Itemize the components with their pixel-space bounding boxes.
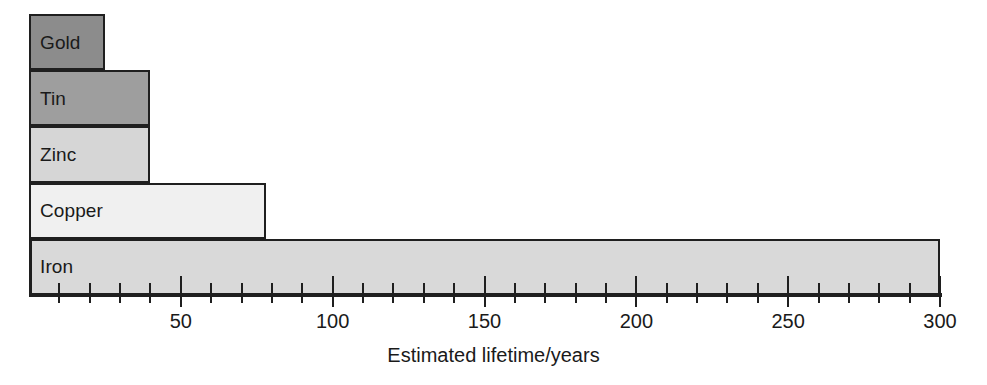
x-tick-below xyxy=(939,297,941,307)
x-tick-below xyxy=(757,297,759,303)
x-tick-below xyxy=(878,297,880,303)
x-tick-minor xyxy=(362,283,364,294)
bar-zinc: Zinc xyxy=(29,126,150,182)
x-tick-label: 300 xyxy=(923,311,956,331)
horizontal-bar-chart: GoldTinZincCopperIron 50100150200250300 … xyxy=(0,0,987,385)
x-tick-below xyxy=(666,297,668,303)
axis-left-cap xyxy=(29,237,32,295)
x-tick-below xyxy=(514,297,516,303)
x-tick-major xyxy=(484,276,486,294)
bar-label: Zinc xyxy=(31,145,76,164)
x-tick-minor xyxy=(575,283,577,294)
x-tick-label: 100 xyxy=(316,311,349,331)
x-tick-minor xyxy=(544,283,546,294)
x-tick-below xyxy=(210,297,212,303)
x-tick-minor xyxy=(271,283,273,294)
x-tick-minor xyxy=(818,283,820,294)
x-tick-below xyxy=(180,297,182,307)
x-tick-below xyxy=(848,297,850,303)
plot-area: GoldTinZincCopperIron xyxy=(29,14,940,295)
x-tick-below xyxy=(332,297,334,307)
bar-row: Zinc xyxy=(29,126,940,182)
x-tick-minor xyxy=(878,283,880,294)
x-tick-label: 50 xyxy=(170,311,192,331)
x-tick-minor xyxy=(392,283,394,294)
bar-gold: Gold xyxy=(29,14,105,70)
x-tick-below xyxy=(423,297,425,303)
x-tick-below xyxy=(726,297,728,303)
x-tick-minor xyxy=(149,283,151,294)
x-tick-major xyxy=(180,276,182,294)
x-tick-label: 200 xyxy=(620,311,653,331)
x-axis-line xyxy=(29,293,942,297)
x-tick-minor xyxy=(726,283,728,294)
x-tick-below xyxy=(362,297,364,303)
bar-row: Copper xyxy=(29,183,940,239)
x-tick-below xyxy=(392,297,394,303)
x-tick-minor xyxy=(696,283,698,294)
x-tick-below xyxy=(818,297,820,303)
x-tick-minor xyxy=(514,283,516,294)
x-tick-minor xyxy=(605,283,607,294)
x-tick-minor xyxy=(423,283,425,294)
x-tick-below xyxy=(909,297,911,303)
x-tick-minor xyxy=(757,283,759,294)
x-tick-below xyxy=(696,297,698,303)
x-tick-minor xyxy=(58,283,60,294)
x-tick-major xyxy=(332,276,334,294)
x-tick-below xyxy=(301,297,303,303)
x-axis-title: Estimated lifetime/years xyxy=(0,345,987,365)
x-tick-below xyxy=(787,297,789,307)
bar-tin: Tin xyxy=(29,70,150,126)
x-tick-minor xyxy=(666,283,668,294)
bar-label: Gold xyxy=(31,33,81,52)
x-tick-minor xyxy=(453,283,455,294)
x-tick-below xyxy=(58,297,60,303)
x-tick-minor xyxy=(210,283,212,294)
x-tick-minor xyxy=(909,283,911,294)
bar-label: Iron xyxy=(31,257,73,276)
x-tick-below xyxy=(271,297,273,303)
x-tick-minor xyxy=(241,283,243,294)
x-tick-below xyxy=(453,297,455,303)
x-tick-below xyxy=(575,297,577,303)
x-tick-minor xyxy=(119,283,121,294)
x-tick-minor xyxy=(89,283,91,294)
bar-copper: Copper xyxy=(29,183,266,239)
x-tick-below xyxy=(635,297,637,307)
bar-row: Tin xyxy=(29,70,940,126)
x-tick-below xyxy=(89,297,91,303)
x-tick-minor xyxy=(301,283,303,294)
x-tick-below xyxy=(241,297,243,303)
bar-label: Tin xyxy=(31,89,66,108)
x-tick-label: 250 xyxy=(771,311,804,331)
x-tick-major xyxy=(635,276,637,294)
x-tick-below xyxy=(544,297,546,303)
x-tick-minor xyxy=(848,283,850,294)
x-tick-below xyxy=(149,297,151,303)
x-tick-major xyxy=(939,276,941,294)
bar-label: Copper xyxy=(31,201,103,220)
x-tick-below xyxy=(119,297,121,303)
x-tick-label: 150 xyxy=(468,311,501,331)
x-tick-below xyxy=(605,297,607,303)
x-tick-below xyxy=(484,297,486,307)
x-tick-major xyxy=(787,276,789,294)
bar-row: Gold xyxy=(29,14,940,70)
